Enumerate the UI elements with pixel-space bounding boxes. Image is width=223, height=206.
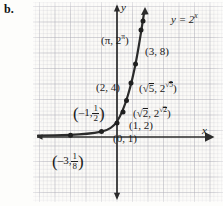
label-text: (3, 8) [145,45,169,57]
base-2: , 2 [148,107,159,119]
x-value: –3, [58,154,72,166]
point-pi-2pi [141,19,146,24]
paren-close: ) [99,105,105,122]
sqrt-5-exponent: √5 [165,81,173,89]
sqrt-2-exponent: √2 [159,106,167,114]
pi-exponent: π [121,32,125,41]
label-point-sqrt5: (√5, 2√5) [139,81,177,94]
label-point-1-2: (1, 2) [129,120,153,131]
point-sqrt2 [124,98,129,103]
paren-close: ) [78,153,84,170]
base-2: , 2 [154,82,165,94]
y-axis-label: y [121,1,126,13]
pi-base: , 2 [110,34,121,46]
graph-plot [0,0,223,206]
label-point-3-8: (3, 8) [145,46,169,57]
paren-open: ( [73,105,79,122]
x-axis-label: x [202,124,207,136]
label-point-neg1-half: (–1,12) [73,104,105,123]
sqrt-2: √2 [137,108,149,119]
point-neg1-half [99,129,104,134]
label-point-0-1: (0, 1) [113,133,137,144]
sqrt-5: √5 [143,83,155,94]
point-1-2 [121,110,126,115]
label-text: (2, 4) [96,81,120,93]
point-neg3-eighth [68,133,73,138]
paren-open: ( [52,153,58,170]
point-sqrt5 [133,62,138,67]
point-0-1 [115,121,120,126]
paren-close: ) [167,107,171,119]
x-value: –1, [79,106,93,118]
point-2-4 [129,81,134,86]
label-point-sqrt2: (√2, 2√2) [133,106,171,119]
equation-text: y = 2 [171,13,194,25]
label-point-2-4: (2, 4) [96,82,120,93]
exponential-graph-figure: b. [0,0,223,206]
label-point-neg3-eighth: (–3,18) [52,152,84,171]
point-3-8 [139,28,144,33]
equation-label: y = 2x [171,12,198,25]
equation-exponent: x [194,11,197,20]
label-text: (0, 1) [113,132,137,144]
label-point-pi: (π, 2π) [101,33,129,46]
paren-close: ) [173,82,177,94]
label-text: (1, 2) [129,119,153,131]
paren-close: ) [125,34,129,46]
